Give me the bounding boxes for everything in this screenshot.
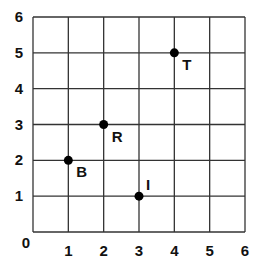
y-tick-label: 5 (15, 44, 23, 61)
y-tick-label: 1 (15, 187, 23, 204)
point-marker (64, 156, 73, 165)
x-tick-label: 0 (22, 234, 30, 251)
data-point-i: I (135, 176, 151, 201)
x-tick-label: 6 (241, 242, 249, 259)
y-tick-label: 2 (15, 151, 23, 168)
point-label: T (182, 56, 191, 73)
data-point-b: B (64, 156, 88, 181)
x-tick-label: 3 (135, 242, 143, 259)
x-tick-label: 1 (64, 242, 72, 259)
point-label: B (76, 163, 87, 180)
x-tick-label: 5 (205, 242, 213, 259)
point-marker (135, 192, 144, 201)
y-axis-tick-labels: 123456 (15, 8, 24, 204)
data-point-r: R (99, 120, 123, 145)
y-tick-label: 6 (15, 8, 23, 25)
y-tick-label: 3 (15, 116, 23, 133)
point-marker (99, 120, 108, 129)
x-tick-label: 4 (170, 242, 179, 259)
coordinate-grid-chart: 0123456 123456 BRIT (0, 0, 261, 270)
x-tick-label: 2 (99, 242, 107, 259)
x-axis-tick-labels: 0123456 (22, 234, 249, 259)
point-label: R (112, 128, 123, 145)
point-label: I (146, 176, 150, 193)
point-marker (170, 48, 179, 57)
data-point-t: T (170, 48, 192, 73)
y-tick-label: 4 (15, 80, 24, 97)
